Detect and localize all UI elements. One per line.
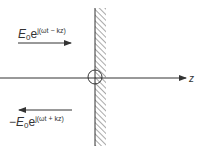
incident-wave-label: E0ej(ωt − kz) <box>18 27 66 42</box>
reflected-wave-label: −E0ej(ωt + kz) <box>9 115 64 130</box>
wall-hatching <box>95 8 106 146</box>
incident-wave: E0ej(ωt − kz) <box>18 27 71 43</box>
z-axis-label: z <box>188 73 194 84</box>
conducting-wall <box>95 8 106 146</box>
reflected-wave: −E0ej(ωt + kz) <box>9 110 72 130</box>
wave-reflection-diagram: z E0ej(ωt − kz) −E0ej(ωt + kz) <box>0 0 199 152</box>
